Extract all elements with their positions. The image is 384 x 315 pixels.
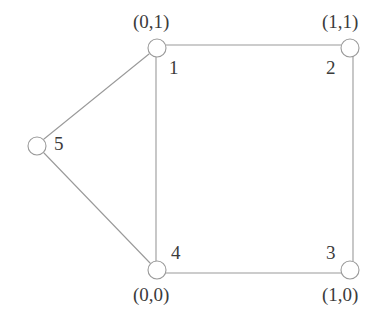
node-layer xyxy=(28,39,359,279)
graph-node-coordinate-4: (0,0) xyxy=(133,285,169,304)
graph-node-label-1: 1 xyxy=(169,58,179,77)
graph-node-1[interactable] xyxy=(148,39,166,57)
graph-node-coordinate-2: (1,1) xyxy=(322,12,358,31)
graph-node-5[interactable] xyxy=(28,137,46,155)
graph-node-2[interactable] xyxy=(341,39,359,57)
graph-node-coordinate-3: (1,0) xyxy=(322,285,358,304)
edge-layer xyxy=(44,45,353,273)
graph-node-label-5: 5 xyxy=(54,134,64,153)
graph-node-coordinate-1: (0,1) xyxy=(133,12,169,31)
graph-edge-1-5 xyxy=(44,54,149,139)
graph-node-label-2: 2 xyxy=(326,58,336,77)
graph-node-4[interactable] xyxy=(148,261,166,279)
graph-node-label-3: 3 xyxy=(326,243,336,262)
graph-figure: 1(0,1)2(1,1)3(1,0)4(0,0)5 xyxy=(0,0,384,315)
graph-node-label-4: 4 xyxy=(171,243,181,262)
graph-edge-5-4 xyxy=(44,153,150,263)
graph-canvas xyxy=(0,0,384,315)
graph-node-3[interactable] xyxy=(341,261,359,279)
